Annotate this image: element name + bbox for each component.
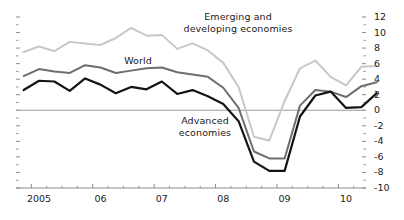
x-axis-line xyxy=(16,184,366,188)
y-axis-tick-label: 2 xyxy=(374,89,400,100)
x-axis-tick-label: 06 xyxy=(80,193,120,204)
chart-container: Emerging and developing economies World … xyxy=(0,0,404,220)
y-axis-tick-label: -10 xyxy=(374,182,400,193)
series-label-world: World xyxy=(108,55,168,67)
y-axis-tick-label: -8 xyxy=(374,166,400,177)
y-axis-left-ticks xyxy=(16,17,20,188)
x-axis-tick-label: 10 xyxy=(326,193,366,204)
y-axis-tick-label: 0 xyxy=(374,104,400,115)
y-axis-tick-label: 12 xyxy=(374,11,400,22)
x-axis-tick-label: 09 xyxy=(265,193,305,204)
y-axis-tick-label: -4 xyxy=(374,135,400,146)
y-axis-tick-label: 6 xyxy=(374,58,400,69)
series-label-emerging-economies: Emerging and developing economies xyxy=(178,11,298,35)
y-axis-tick-label: -6 xyxy=(374,151,400,162)
series-label-advanced-economies: Advanced economies xyxy=(160,115,250,139)
x-axis-tick-label: 08 xyxy=(203,193,243,204)
x-axis-tick-label: 2005 xyxy=(19,193,59,204)
x-axis-tick-label: 07 xyxy=(142,193,182,204)
y-axis-tick-label: -2 xyxy=(374,120,400,131)
y-axis-tick-label: 10 xyxy=(374,27,400,38)
y-axis-tick-label: 4 xyxy=(374,73,400,84)
y-axis-tick-label: 8 xyxy=(374,42,400,53)
data-series-group xyxy=(24,28,377,171)
